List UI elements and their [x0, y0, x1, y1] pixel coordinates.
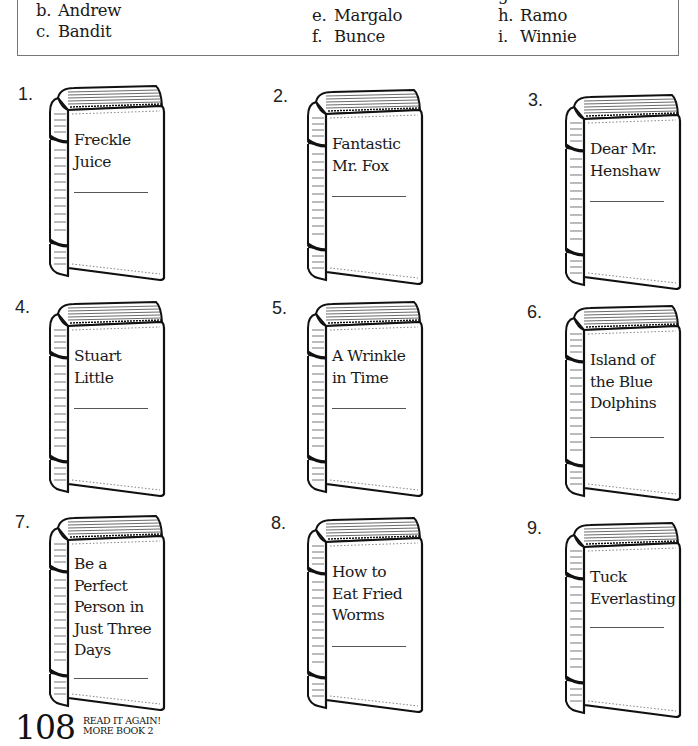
answer-blank[interactable]	[74, 408, 148, 409]
book-title: Fantastic Mr. Fox	[332, 134, 424, 177]
book-title: Tuck Everlasting	[590, 567, 682, 610]
book-title: Dear Mr. Henshaw	[590, 139, 682, 182]
series-title: READ IT AGAIN! MORE BOOK 2	[83, 716, 161, 736]
title-line: Freckle	[74, 130, 166, 152]
answer-option-b: b.Andrew	[36, 1, 121, 20]
book-9: Tuck Everlasting	[560, 521, 685, 717]
option-name: Andrew	[58, 1, 121, 20]
book-icon	[560, 93, 685, 291]
page-number: 108	[15, 708, 75, 746]
title-line: How to	[332, 562, 424, 584]
item-number: 5.	[272, 298, 287, 319]
answer-blank[interactable]	[590, 437, 664, 438]
title-line: Dolphins	[590, 393, 682, 415]
title-line: Just Three	[74, 619, 166, 641]
title-line: Fantastic	[332, 134, 424, 156]
book-1: Freckle Juice	[44, 84, 169, 280]
option-letter: c.	[36, 22, 58, 41]
title-line: Everlasting	[590, 589, 682, 611]
option-name: Bandit	[58, 22, 111, 41]
answer-option-h: h.Ramo	[498, 6, 567, 25]
option-name: Ramo	[520, 6, 567, 25]
option-letter: g.	[498, 0, 520, 4]
book-icon	[44, 300, 169, 498]
option-name: Bunce	[334, 27, 385, 46]
title-line: Perfect	[74, 576, 166, 598]
option-name: Margalo	[334, 6, 402, 25]
title-line: Worms	[332, 605, 424, 627]
item-number: 7.	[15, 512, 30, 533]
option-name: Winnie	[520, 27, 576, 46]
answer-blank[interactable]	[590, 201, 664, 202]
book-title: Freckle Juice	[74, 130, 166, 173]
book-icon	[560, 521, 685, 719]
item-number: 1.	[18, 84, 33, 105]
book-4: Stuart Little	[44, 300, 169, 496]
answer-blank[interactable]	[332, 196, 406, 197]
book-title: How to Eat Fried Worms	[332, 562, 424, 627]
book-icon	[44, 84, 169, 282]
item-number: 4.	[15, 297, 30, 318]
title-line: Eat Fried	[332, 584, 424, 606]
title-line: in Time	[332, 368, 424, 390]
answer-option-g-cropped: g.(cut off)	[498, 0, 584, 4]
option-letter: h.	[498, 6, 520, 25]
title-line: Little	[74, 368, 166, 390]
book-icon	[302, 300, 427, 498]
answer-blank[interactable]	[74, 678, 148, 679]
book-2: Fantastic Mr. Fox	[302, 88, 427, 284]
title-line: Island of	[590, 350, 682, 372]
item-number: 6.	[527, 302, 542, 323]
answer-blank[interactable]	[332, 408, 406, 409]
title-line: Juice	[74, 152, 166, 174]
title-line: Be a	[74, 554, 166, 576]
title-line: Mr. Fox	[332, 156, 424, 178]
item-number: 9.	[527, 518, 542, 539]
answer-option-f: f.Bunce	[312, 27, 385, 46]
title-line: Dear Mr.	[590, 139, 682, 161]
answer-option-i: i.Winnie	[498, 27, 576, 46]
title-line: A Wrinkle	[332, 346, 424, 368]
title-line: the Blue	[590, 372, 682, 394]
option-letter: e.	[312, 6, 334, 25]
option-letter: i.	[498, 27, 520, 46]
book-icon	[302, 88, 427, 286]
answer-blank[interactable]	[74, 192, 148, 193]
book-3: Dear Mr. Henshaw	[560, 93, 685, 289]
book-8: How to Eat Fried Worms	[302, 516, 427, 712]
book-7: Be a Perfect Person in Just Three Days	[44, 514, 169, 710]
book-5: A Wrinkle in Time	[302, 300, 427, 496]
item-number: 8.	[271, 513, 286, 534]
option-letter: b.	[36, 1, 58, 20]
item-number: 2.	[273, 86, 288, 107]
series-line: MORE BOOK 2	[83, 726, 161, 736]
answer-blank[interactable]	[332, 646, 406, 647]
book-title: Stuart Little	[74, 346, 166, 389]
title-line: Stuart	[74, 346, 166, 368]
answer-option-e: e.Margalo	[312, 6, 402, 25]
title-line: Henshaw	[590, 161, 682, 183]
book-title: A Wrinkle in Time	[332, 346, 424, 389]
book-title: Be a Perfect Person in Just Three Days	[74, 554, 166, 662]
item-number: 3.	[528, 90, 543, 111]
answer-option-c: c.Bandit	[36, 22, 111, 41]
option-letter: f.	[312, 27, 334, 46]
book-title: Island of the Blue Dolphins	[590, 350, 682, 415]
title-line: Tuck	[590, 567, 682, 589]
title-line: Days	[74, 640, 166, 662]
title-line: Person in	[74, 597, 166, 619]
book-6: Island of the Blue Dolphins	[560, 304, 685, 500]
answer-blank[interactable]	[590, 627, 664, 628]
